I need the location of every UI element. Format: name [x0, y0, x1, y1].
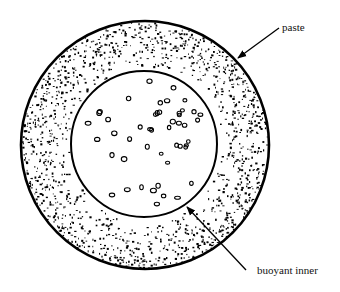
- sphere-cross-section-diagram: [0, 0, 340, 292]
- label-paste: paste: [282, 22, 305, 33]
- label-buoyant-inner: buoyant inner: [257, 265, 318, 276]
- paste-arrow: [238, 28, 279, 58]
- buoyant-inner-arrow: [187, 207, 246, 270]
- inner-circle-buoyant-core: [71, 71, 217, 217]
